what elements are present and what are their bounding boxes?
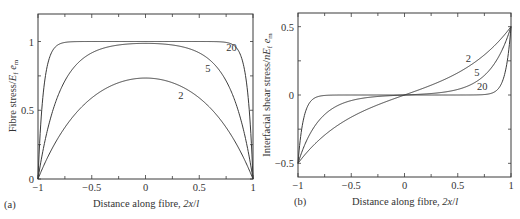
curves-b [298, 27, 511, 164]
figure: −1−0.500.5100.51 2052 (a) Distance along… [0, 0, 520, 219]
x-tick-label: 0 [143, 182, 148, 193]
y-axis-label-b: Interfacial shear stress/nEf em [261, 33, 274, 157]
x-tick-label: −0.5 [82, 182, 101, 193]
panel-label-a: (a) [4, 199, 16, 211]
x-tick-label: 0 [402, 180, 407, 191]
curve-ns-20 [298, 27, 511, 164]
y-tick-label: 0 [289, 90, 294, 101]
y-tick-label: 0.5 [21, 105, 34, 116]
curve-labels-a: 2052 [178, 42, 236, 101]
x-tick-label: 1 [508, 180, 513, 191]
x-axis-label-a: Distance along fibre, 2x/l [93, 198, 199, 209]
x-axis-label-b: Distance along fibre, 2x/l [352, 196, 458, 207]
x-tick-label: −0.5 [342, 180, 361, 191]
panel-label-b: (b) [294, 196, 307, 208]
x-tick-label: 1 [250, 182, 255, 193]
curve-label: 20 [477, 81, 488, 92]
curves-a [38, 42, 253, 180]
panel-b-interfacial-shear-chart: −1−0.500.51−0.500.5 2520 (b) Distance al… [261, 13, 514, 208]
y-tick-label: 1 [29, 37, 34, 48]
curve-label: 5 [474, 67, 479, 78]
x-tick-label: 0.5 [451, 180, 464, 191]
plot-frame-a [38, 14, 253, 179]
curve-label: 2 [466, 53, 471, 64]
x-tick-label: −1 [32, 182, 43, 193]
curve-label: 20 [226, 42, 237, 53]
y-tick-label: −0.5 [275, 158, 294, 169]
curve-ns-20 [38, 42, 253, 180]
y-tick-label: 0.5 [281, 22, 294, 33]
curve-ns-2 [38, 78, 253, 179]
x-tick-label: 0.5 [193, 182, 206, 193]
y-tick-label: 0 [29, 174, 34, 185]
y-axis-label-a: Fibre stress/Ef em [7, 59, 20, 132]
curve-label: 2 [178, 90, 183, 101]
axis-ticks-a: −1−0.500.5100.51 [21, 14, 256, 193]
panel-a-fibre-stress-chart: −1−0.500.5100.51 2052 (a) Distance along… [4, 14, 256, 211]
x-tick-label: −1 [292, 180, 303, 191]
curve-ns-5 [38, 43, 253, 179]
curve-label: 5 [205, 63, 210, 74]
